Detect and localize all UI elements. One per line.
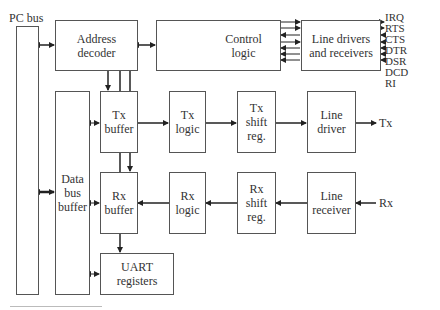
pc-bus-bar xyxy=(16,26,39,295)
rx-buffer-label: Rx buffer xyxy=(104,189,133,217)
tx-logic-block: Tx logic xyxy=(169,91,206,153)
rx-buffer-block: Rx buffer xyxy=(100,172,138,234)
footnote-rule xyxy=(10,306,102,307)
rx-shift-reg-label: Rx shift reg. xyxy=(246,182,267,224)
control-logic-label: Control logic xyxy=(175,32,262,60)
tx-output-label: Tx xyxy=(379,117,392,129)
line-drivers-receivers-label: Line drivers and receivers xyxy=(309,32,373,60)
line-receiver-label: Line receiver xyxy=(312,189,351,217)
tx-shift-reg-block: Tx shift reg. xyxy=(237,91,276,153)
signal-ri: RI xyxy=(385,78,396,89)
uart-registers-label: UART registers xyxy=(117,260,158,288)
data-bus-buffer-block: Data bus buffer xyxy=(55,91,90,295)
tx-shift-reg-label: Tx shift reg. xyxy=(246,101,267,143)
address-decoder-label: Address decoder xyxy=(77,32,116,60)
tx-logic-label: Tx logic xyxy=(176,108,200,136)
rx-logic-block: Rx logic xyxy=(169,172,206,234)
line-receiver-block: Line receiver xyxy=(307,172,356,234)
line-driver-block: Line driver xyxy=(307,91,356,153)
data-bus-buffer-label: Data bus buffer xyxy=(58,172,87,214)
uart-registers-block: UART registers xyxy=(100,253,174,295)
tx-buffer-label: Tx buffer xyxy=(104,108,133,136)
rx-shift-reg-block: Rx shift reg. xyxy=(237,172,276,234)
rx-logic-label: Rx logic xyxy=(176,189,200,217)
line-drivers-receivers-block: Line drivers and receivers xyxy=(301,20,381,71)
line-driver-label: Line driver xyxy=(317,108,346,136)
rx-input-label: Rx xyxy=(379,197,393,209)
pc-bus-label: PC bus xyxy=(9,12,43,24)
address-decoder-block: Address decoder xyxy=(55,20,138,71)
control-logic-block: Control logic xyxy=(156,20,281,71)
tx-buffer-block: Tx buffer xyxy=(100,91,138,153)
